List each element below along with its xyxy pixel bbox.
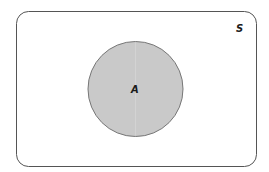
set-a-label: A — [130, 84, 139, 95]
venn-diagram: S A — [0, 0, 269, 172]
universe-label: S — [236, 23, 243, 34]
